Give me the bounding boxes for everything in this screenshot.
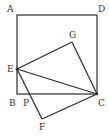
label-d: D	[98, 4, 105, 14]
point-c-dot	[96, 93, 98, 95]
segment-fc	[42, 94, 97, 119]
label-p: P	[23, 98, 29, 108]
segment-eg	[17, 42, 72, 69]
segment-gc	[72, 42, 97, 94]
label-b: B	[9, 98, 16, 108]
segment-ec	[17, 69, 97, 94]
label-g: G	[69, 30, 76, 40]
point-e-dot	[16, 68, 19, 71]
geometry-diagram: A D E G B P C F	[0, 0, 109, 139]
label-f: F	[39, 122, 45, 132]
label-a: A	[6, 4, 14, 14]
label-e: E	[7, 64, 14, 74]
label-c: C	[98, 98, 105, 108]
square-abcd	[17, 15, 97, 94]
